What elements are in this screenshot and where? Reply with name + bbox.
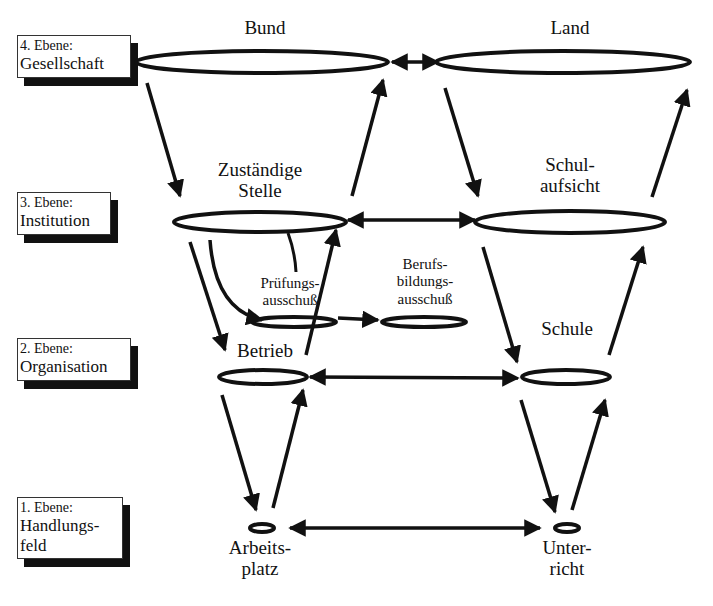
arrow-schule-to-schulaufsicht: [609, 247, 643, 355]
arrow-betrieb-schule: [310, 377, 518, 378]
land-ellipse: [436, 51, 690, 73]
label-line: Prüfungs-: [245, 275, 335, 292]
label-schule: Schule: [527, 319, 607, 340]
label-line: Arbeits-: [220, 538, 300, 559]
arbeitsplatz-ellipse: [250, 524, 274, 532]
schulaufsicht-ellipse: [475, 211, 665, 233]
berufsbildungsausschuss-ellipse: [382, 317, 466, 327]
label-pruefungsausschuss: Prüfungs- ausschuß: [245, 275, 335, 310]
arrow-land-to-schulaufsicht: [445, 88, 478, 196]
label-betrieb: Betrieb: [225, 341, 305, 362]
label-zustaendige-stelle: Zuständige Stelle: [200, 160, 320, 202]
schule-ellipse: [522, 370, 610, 384]
label-line: Stelle: [200, 181, 320, 202]
arrow-schulaufsicht-to-schule: [483, 247, 517, 362]
label-line: platz: [220, 559, 300, 580]
bund-ellipse: [136, 51, 388, 73]
label-line: Unter-: [527, 538, 607, 559]
arrow-schulaufsicht-to-land: [652, 90, 687, 197]
label-line: ausschuß: [245, 292, 335, 309]
label-line: Schul-: [520, 155, 620, 176]
diagram-canvas: [0, 0, 713, 606]
arrow-pruefung-to-berufsbildung: [338, 318, 378, 320]
label-line: bildungs-: [380, 273, 470, 290]
pruefungsausschuss-ellipse: [252, 317, 336, 327]
arrow-betrieb-to-arbeitsplatz: [222, 395, 256, 510]
label-line: Berufs-: [380, 256, 470, 273]
arrow-arbeitsplatz-to-betrieb: [273, 390, 303, 508]
label-line: richt: [527, 559, 607, 580]
arrow-stelle-to-betrieb: [190, 242, 225, 350]
arrow-unterricht-to-schule: [572, 400, 605, 510]
zustaendige-stelle-ellipse: [174, 212, 346, 232]
arrow-stelle-to-bund: [352, 80, 383, 196]
label-line: aufsicht: [520, 176, 620, 197]
label-berufsbildungsausschuss: Berufs- bildungs- ausschuß: [380, 256, 470, 308]
label-unterricht: Unter- richt: [527, 538, 607, 580]
arrow-bund-to-stelle: [147, 83, 180, 196]
label-bund: Bund: [225, 18, 305, 39]
label-line: Zuständige: [200, 160, 320, 181]
label-land: Land: [530, 18, 610, 39]
label-line: ausschuß: [380, 291, 470, 308]
betrieb-ellipse: [219, 370, 307, 384]
connector-stelle-pruefung: [288, 233, 296, 272]
label-arbeitsplatz: Arbeits- platz: [220, 538, 300, 580]
label-schulaufsicht: Schul- aufsicht: [520, 155, 620, 197]
arrow-schule-to-unterricht: [521, 400, 555, 512]
unterricht-ellipse: [555, 524, 579, 532]
